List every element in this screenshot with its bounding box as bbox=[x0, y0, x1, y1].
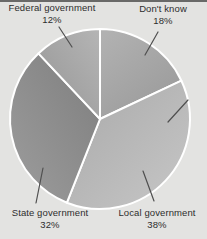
slice-percentage: 32% bbox=[2, 219, 98, 231]
slice-label: State government bbox=[2, 207, 98, 219]
pie-chart-figure: Federal government 12% Don't know 18% St… bbox=[0, 0, 207, 239]
pie-svg bbox=[0, 0, 207, 239]
slice-label: Local government bbox=[110, 207, 204, 219]
callout-state-government: State government 32% bbox=[2, 207, 98, 230]
slice-label: Federal government bbox=[6, 2, 98, 14]
slice-percentage: 18% bbox=[128, 15, 198, 27]
callout-local-government: Local government 38% bbox=[110, 207, 204, 230]
slice-percentage: 12% bbox=[6, 14, 98, 26]
pie-slices bbox=[10, 29, 190, 209]
callout-dont-know: Don't know 18% bbox=[128, 3, 198, 26]
slice-label: Don't know bbox=[128, 3, 198, 15]
slice-percentage: 38% bbox=[110, 219, 204, 231]
callout-federal-government: Federal government 12% bbox=[6, 2, 98, 25]
